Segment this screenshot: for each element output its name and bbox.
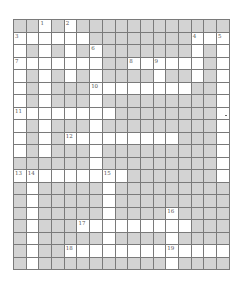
crossword-cell[interactable]	[103, 83, 116, 96]
crossword-cell[interactable]	[116, 170, 129, 183]
crossword-cell[interactable]	[141, 58, 154, 71]
crossword-cell[interactable]	[90, 145, 103, 158]
crossword-cell[interactable]	[27, 183, 40, 196]
crossword-cell[interactable]	[77, 108, 90, 121]
crossword-cell[interactable]	[128, 245, 141, 258]
crossword-cell[interactable]	[39, 33, 52, 46]
crossword-cell[interactable]	[90, 120, 103, 133]
crossword-cell[interactable]	[77, 133, 90, 146]
crossword-cell[interactable]	[103, 220, 116, 233]
crossword-cell[interactable]	[39, 108, 52, 121]
crossword-cell[interactable]	[116, 245, 129, 258]
crossword-cell[interactable]	[39, 70, 52, 83]
crossword-cell[interactable]	[166, 220, 179, 233]
crossword-cell[interactable]: 16	[166, 208, 179, 221]
crossword-cell[interactable]	[166, 133, 179, 146]
crossword-cell[interactable]	[65, 45, 78, 58]
crossword-cell[interactable]	[128, 133, 141, 146]
crossword-cell[interactable]	[166, 258, 179, 271]
crossword-cell[interactable]	[27, 245, 40, 258]
crossword-cell[interactable]	[217, 58, 230, 71]
crossword-cell[interactable]	[90, 95, 103, 108]
crossword-cell[interactable]	[27, 258, 40, 271]
crossword-cell[interactable]	[90, 108, 103, 121]
crossword-cell[interactable]: 14	[27, 170, 40, 183]
crossword-cell[interactable]	[90, 133, 103, 146]
crossword-cell[interactable]	[90, 220, 103, 233]
crossword-cell[interactable]	[103, 183, 116, 196]
crossword-cell[interactable]	[166, 233, 179, 246]
crossword-cell[interactable]: 15	[103, 170, 116, 183]
crossword-cell[interactable]: 2	[65, 20, 78, 33]
crossword-cell[interactable]	[27, 220, 40, 233]
crossword-cell[interactable]	[217, 170, 230, 183]
crossword-cell[interactable]: 13	[14, 170, 27, 183]
crossword-cell[interactable]	[65, 33, 78, 46]
crossword-cell[interactable]	[116, 220, 129, 233]
crossword-cell[interactable]	[154, 245, 167, 258]
crossword-cell[interactable]	[27, 108, 40, 121]
crossword-cell[interactable]	[103, 108, 116, 121]
crossword-cell[interactable]	[179, 245, 192, 258]
crossword-cell[interactable]	[77, 245, 90, 258]
crossword-cell[interactable]	[166, 83, 179, 96]
crossword-cell[interactable]	[217, 45, 230, 58]
crossword-cell[interactable]	[166, 58, 179, 71]
crossword-cell[interactable]	[90, 70, 103, 83]
crossword-cell[interactable]	[128, 83, 141, 96]
crossword-cell[interactable]	[39, 83, 52, 96]
crossword-cell[interactable]	[39, 145, 52, 158]
crossword-cell[interactable]	[103, 233, 116, 246]
crossword-cell[interactable]	[27, 58, 40, 71]
crossword-cell[interactable]	[65, 170, 78, 183]
crossword-cell[interactable]	[52, 108, 65, 121]
crossword-cell[interactable]	[52, 58, 65, 71]
crossword-cell[interactable]	[14, 120, 27, 133]
crossword-cell[interactable]	[65, 108, 78, 121]
crossword-cell[interactable]	[154, 220, 167, 233]
crossword-cell[interactable]	[77, 58, 90, 71]
crossword-cell[interactable]	[52, 33, 65, 46]
crossword-cell[interactable]: 18	[65, 245, 78, 258]
crossword-cell[interactable]	[90, 245, 103, 258]
crossword-cell[interactable]	[204, 245, 217, 258]
crossword-cell[interactable]	[192, 70, 205, 83]
crossword-cell[interactable]	[27, 208, 40, 221]
crossword-cell[interactable]	[141, 133, 154, 146]
crossword-cell[interactable]	[141, 220, 154, 233]
crossword-cell[interactable]	[217, 245, 230, 258]
crossword-cell[interactable]	[192, 45, 205, 58]
crossword-cell[interactable]	[141, 245, 154, 258]
crossword-cell[interactable]	[217, 145, 230, 158]
crossword-cell[interactable]	[103, 208, 116, 221]
crossword-cell[interactable]: 9	[154, 58, 167, 71]
crossword-cell[interactable]	[39, 120, 52, 133]
crossword-cell[interactable]	[27, 33, 40, 46]
crossword-cell[interactable]	[14, 70, 27, 83]
crossword-cell[interactable]	[192, 58, 205, 71]
crossword-cell[interactable]	[90, 170, 103, 183]
crossword-cell[interactable]	[77, 33, 90, 46]
crossword-cell[interactable]	[52, 170, 65, 183]
crossword-cell[interactable]	[90, 58, 103, 71]
crossword-cell[interactable]	[65, 58, 78, 71]
crossword-cell[interactable]	[39, 170, 52, 183]
crossword-cell[interactable]	[192, 245, 205, 258]
crossword-cell[interactable]	[27, 195, 40, 208]
crossword-cell[interactable]: 8	[128, 58, 141, 71]
crossword-cell[interactable]: 1	[39, 20, 52, 33]
crossword-cell[interactable]	[128, 220, 141, 233]
crossword-cell[interactable]: 19	[166, 245, 179, 258]
crossword-cell[interactable]	[179, 83, 192, 96]
crossword-cell[interactable]: 3	[14, 33, 27, 46]
crossword-cell[interactable]	[217, 70, 230, 83]
crossword-cell[interactable]	[204, 33, 217, 46]
crossword-cell[interactable]	[217, 108, 230, 121]
crossword-cell[interactable]	[39, 133, 52, 146]
crossword-cell[interactable]	[14, 95, 27, 108]
crossword-cell[interactable]	[39, 95, 52, 108]
crossword-cell[interactable]	[39, 58, 52, 71]
crossword-cell[interactable]	[179, 58, 192, 71]
crossword-cell[interactable]: 6	[90, 45, 103, 58]
crossword-cell[interactable]	[14, 45, 27, 58]
